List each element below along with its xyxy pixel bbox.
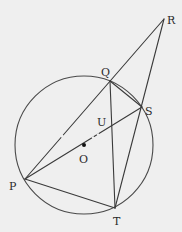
label-r: R bbox=[167, 14, 176, 27]
label-q: Q bbox=[101, 66, 110, 79]
gap-mark-ps-2 bbox=[97, 134, 99, 135]
centre-point-o bbox=[82, 143, 86, 147]
segment-ps bbox=[25, 107, 142, 179]
label-o: O bbox=[79, 153, 88, 166]
segment-pt bbox=[25, 179, 115, 208]
gap-mark-ps bbox=[92, 137, 94, 138]
segment-qt bbox=[110, 81, 115, 208]
segment-qs bbox=[110, 81, 142, 107]
label-t: T bbox=[113, 215, 121, 228]
label-u: U bbox=[97, 116, 106, 129]
geometry-diagram: P Q R S T U O bbox=[0, 0, 182, 232]
label-p: P bbox=[9, 180, 17, 193]
gap-mark-pq bbox=[61, 135, 63, 137]
label-s: S bbox=[145, 105, 153, 118]
